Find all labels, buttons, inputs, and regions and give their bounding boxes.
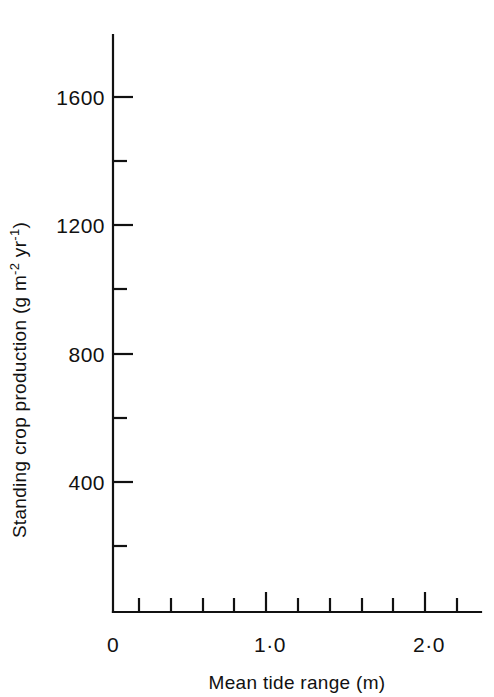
y-axis-tick-labels: 1600 1200 800 400 [56, 86, 105, 494]
y-tick-label-1600: 1600 [56, 86, 105, 109]
y-tick-label-800: 800 [68, 343, 105, 366]
x-tick-label-0: 0 [107, 633, 119, 656]
y-axis-title-mid: yr [9, 240, 30, 262]
y-axis-ticks [113, 97, 133, 546]
y-axis-title-exponent-2: -1 [7, 229, 22, 241]
chart-figure: 1600 1200 800 400 0 1·0 2·0 Mean tide ra [0, 0, 494, 697]
y-axis-title: Standing crop production (g m-2 yr-1) [7, 222, 30, 538]
y-tick-label-1200: 1200 [56, 214, 105, 237]
y-axis-title-suffix: ) [9, 222, 30, 229]
x-axis-tick-labels: 0 1·0 2·0 [107, 633, 445, 656]
y-tick-label-400: 400 [68, 471, 105, 494]
x-tick-label-1p0: 1·0 [254, 633, 286, 656]
y-axis-title-prefix: Standing crop production (g m [9, 275, 30, 538]
axes-group [113, 35, 481, 612]
scatter-plot: 1600 1200 800 400 0 1·0 2·0 Mean tide ra [0, 0, 494, 697]
y-axis-title-exponent-1: -2 [7, 263, 22, 275]
x-tick-label-2p0: 2·0 [413, 633, 445, 656]
x-axis-title: Mean tide range (m) [209, 672, 386, 693]
x-axis-ticks [139, 592, 457, 612]
svg-text:Standing crop production (g m-: Standing crop production (g m-2 yr-1) [7, 222, 30, 538]
